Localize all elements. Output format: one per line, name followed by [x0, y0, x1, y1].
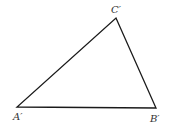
triangle-shape: [17, 18, 156, 108]
vertex-label-b: B′: [149, 113, 160, 124]
vertex-label-c: C′: [111, 4, 122, 15]
triangle-diagram: A′ B′ C′: [0, 0, 169, 128]
vertex-label-a: A′: [12, 111, 23, 122]
